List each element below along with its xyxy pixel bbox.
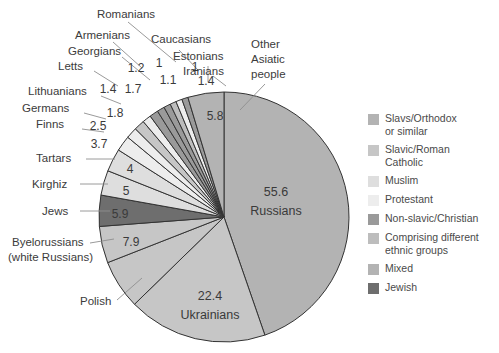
label-lithuanians: Lithuanians: [28, 85, 87, 97]
label-other-asiatic-line3: people: [251, 68, 286, 80]
pie-chart-page: Romanians Caucasians Armenians Estonians…: [0, 0, 499, 353]
value-armenians: 1.4: [198, 74, 215, 88]
label-romanians: Romanians: [97, 8, 155, 20]
legend-label: Slavs/Orthodox or similar: [385, 112, 457, 137]
label-byelorussians-line1: Byelorussians: [12, 236, 84, 248]
legend-swatch: [368, 283, 379, 294]
legend-swatch: [368, 114, 379, 125]
label-russians: Russians: [250, 204, 301, 218]
value-tartars: 4: [127, 162, 134, 176]
leader-line-lithuanians: [101, 96, 121, 104]
value-kirghiz: 5: [123, 184, 130, 198]
legend-label: Mixed: [385, 262, 413, 275]
label-kirghiz: Kirghiz: [32, 178, 67, 190]
legend-label: Comprising different ethnic groups: [385, 231, 479, 256]
legend-label: Jewish: [385, 281, 417, 294]
label-finns: Finns: [36, 118, 64, 130]
value-ukrainians: 22.4: [198, 289, 222, 303]
value-letts: 1.7: [125, 82, 142, 96]
value-finns: 3.7: [91, 137, 108, 151]
label-ukrainians: Ukrainians: [180, 308, 239, 322]
label-tartars: Tartars: [36, 152, 71, 164]
legend-label: Slavic/Roman Catholic: [385, 143, 450, 168]
legend-swatch: [368, 264, 379, 275]
legend: Slavs/Orthodox or similarSlavic/Roman Ca…: [368, 112, 499, 300]
leader-line-iranians: [213, 76, 226, 86]
value-lithuanians: 1.8: [107, 106, 124, 120]
value-jews: 5.9: [112, 207, 129, 221]
legend-item[interactable]: Comprising different ethnic groups: [368, 231, 499, 256]
value-georgians: 1.4: [100, 82, 117, 96]
legend-swatch: [368, 195, 379, 206]
label-armenians: Armenians: [75, 29, 130, 41]
value-germans: 2.5: [90, 119, 107, 133]
label-polish: Polish: [80, 295, 111, 307]
label-estonians: Estonians: [173, 50, 224, 62]
legend-swatch: [368, 233, 379, 244]
legend-item[interactable]: Non-slavic/Christian: [368, 212, 499, 225]
value-caucasians: 1.1: [160, 73, 177, 87]
pie-slices-group: [99, 92, 349, 342]
legend-item[interactable]: Muslim: [368, 174, 499, 187]
label-other-asiatic-line1: Other: [251, 38, 280, 50]
label-georgians: Georgians: [68, 45, 121, 57]
value-estonians: 1: [156, 56, 163, 70]
value-byelorussians: 7.9: [123, 235, 140, 249]
legend-item[interactable]: Jewish: [368, 281, 499, 294]
legend-swatch: [368, 176, 379, 187]
value-other-asiatic: 5.8: [207, 109, 224, 123]
value-romanians: 1.2: [128, 61, 145, 75]
label-caucasians: Caucasians: [151, 33, 211, 45]
label-letts: Letts: [58, 60, 83, 72]
legend-label: Protestant: [385, 193, 433, 206]
legend-item[interactable]: Mixed: [368, 262, 499, 275]
label-jews: Jews: [42, 205, 68, 217]
label-byelorussians-line2: (white Russians): [8, 251, 93, 263]
legend-label: Muslim: [385, 174, 418, 187]
legend-swatch: [368, 214, 379, 225]
legend-item[interactable]: Slavic/Roman Catholic: [368, 143, 499, 168]
value-iranians: 1: [192, 60, 199, 74]
legend-item[interactable]: Protestant: [368, 193, 499, 206]
legend-label: Non-slavic/Christian: [385, 212, 478, 225]
label-germans: Germans: [22, 102, 70, 114]
value-russians: 55.6: [264, 185, 288, 199]
label-other-asiatic-line2: Asiatic: [251, 53, 285, 65]
legend-swatch: [368, 145, 379, 156]
legend-item[interactable]: Slavs/Orthodox or similar: [368, 112, 499, 137]
